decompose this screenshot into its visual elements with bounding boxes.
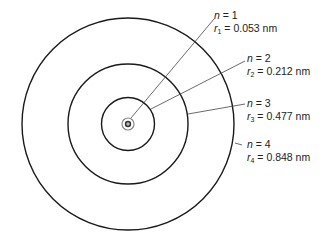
leader-n3 xyxy=(188,104,245,114)
r-subscript: 1 xyxy=(218,28,222,35)
n-symbol: n xyxy=(214,9,220,21)
label-orbit-3: n = 3 r3 = 0.477 nm xyxy=(247,97,310,126)
label-orbit-2: n = 2 r2 = 0.212 nm xyxy=(247,52,310,81)
r-value: = 0.053 nm xyxy=(224,22,277,34)
n-value: = 2 xyxy=(256,52,271,64)
n-symbol: n xyxy=(247,97,253,109)
leader-n4 xyxy=(235,143,242,145)
n-symbol: n xyxy=(247,52,253,64)
r-subscript: 4 xyxy=(251,157,255,164)
r-value: = 0.212 nm xyxy=(257,65,310,77)
label-orbit-1: n = 1 r1 = 0.053 nm xyxy=(214,9,277,38)
leader-n2 xyxy=(151,61,245,109)
leader-n1 xyxy=(131,19,214,118)
n-symbol: n xyxy=(247,138,253,150)
r-value: = 0.848 nm xyxy=(257,151,310,163)
r-subscript: 3 xyxy=(251,116,255,123)
r-subscript: 2 xyxy=(251,71,255,78)
label-orbit-4: n = 4 r4 = 0.848 nm xyxy=(247,138,310,167)
n-value: = 4 xyxy=(256,138,271,150)
n-value: = 3 xyxy=(256,97,271,109)
n-value: = 1 xyxy=(223,9,238,21)
r-value: = 0.477 nm xyxy=(257,110,310,122)
